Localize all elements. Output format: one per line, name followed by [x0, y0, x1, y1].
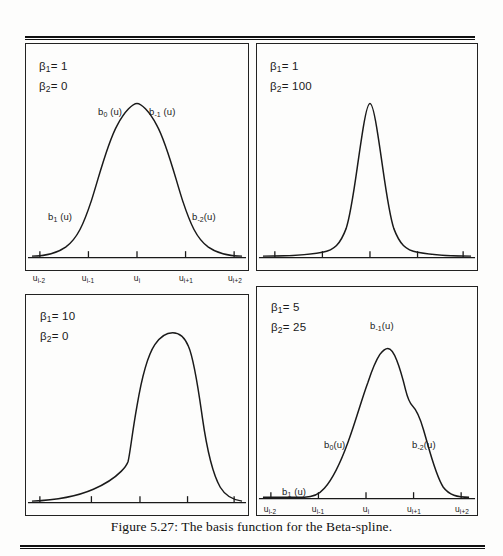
- basis-curve: [263, 103, 471, 256]
- axis-tick-label-3: ui+1: [407, 504, 421, 515]
- beta2-line: β2= 0: [40, 328, 75, 348]
- axis-tick-label-3: ui+1: [179, 273, 193, 284]
- top-rule-line-thick: [25, 36, 475, 38]
- x-axis-ticks: [40, 251, 234, 257]
- beta1-line: β1= 5: [271, 299, 306, 319]
- basis-curve: [32, 333, 242, 501]
- beta2-line: β2= 25: [271, 319, 306, 339]
- axis-tick-label-0: ui-2: [264, 504, 276, 515]
- beta1-line: β1= 1: [270, 58, 312, 78]
- curve-label-b0: b0 (u): [98, 106, 122, 118]
- plot-panel-top-right: β1= 1 β2= 100: [256, 43, 478, 271]
- curve-label-b1: b1 (u): [282, 486, 306, 498]
- axis-labels-top-left: ui-2 ui-1 ui ui+1 ui+2: [25, 273, 249, 287]
- beta-params-bottom-right: β1= 5 β2= 25: [271, 299, 306, 339]
- axis-tick-label-0: ui-2: [33, 273, 45, 284]
- basis-curve: [32, 103, 242, 256]
- axis-tick-label-4: ui+2: [228, 273, 242, 284]
- axis-labels-bottom-right: ui-2 ui-1 ui ui+1 ui+2: [256, 504, 478, 518]
- curve-label-b-2: b-2(u): [412, 439, 436, 451]
- top-rule: [25, 36, 475, 40]
- top-rule-line-thin: [25, 39, 475, 40]
- curve-label-b-1: b-1 (u): [149, 106, 175, 118]
- beta2-line: β2= 100: [270, 78, 312, 98]
- curve-label-b0: b0(u): [324, 439, 345, 451]
- plot-panel-bottom-right: β1= 5 β2= 25 b-1(u) b0(u) b-2(u) b1 (u): [256, 286, 478, 516]
- beta2-line: β2= 0: [39, 78, 68, 98]
- beta-params-top-left: β1= 1 β2= 0: [39, 58, 68, 98]
- beta1-line: β1= 1: [39, 58, 68, 78]
- axis-tick-label-2: ui: [134, 273, 140, 284]
- beta-params-bottom-left: β1= 10 β2= 0: [40, 308, 75, 348]
- bottom-rule-line-thin: [20, 548, 485, 549]
- bottom-rule: [20, 545, 485, 549]
- axis-tick-label-1: ui-1: [82, 273, 94, 284]
- axis-tick-label-4: ui+2: [455, 504, 469, 515]
- curve-label-b-2: b-2(u): [192, 211, 216, 223]
- curve-label-b1: b1 (u): [48, 211, 72, 223]
- axis-tick-label-1: ui-1: [312, 504, 324, 515]
- beta-params-top-right: β1= 1 β2= 100: [270, 58, 312, 98]
- plot-panel-top-left: β1= 1 β2= 0 b0 (u) b-1 (u) b1 (u) b-2(u): [25, 43, 249, 271]
- beta1-line: β1= 10: [40, 308, 75, 328]
- basis-curve: [263, 348, 469, 497]
- figure-page: β1= 1 β2= 0 b0 (u) b-1 (u) b1 (u) b-2(u)…: [0, 0, 503, 556]
- bottom-rule-line-thick: [20, 545, 485, 547]
- axis-tick-label-2: ui: [363, 504, 369, 515]
- plot-panel-bottom-left: β1= 10 β2= 0: [25, 294, 249, 516]
- curve-label-b-1: b-1(u): [370, 320, 394, 332]
- figure-caption: Figure 5.27: The basis function for the …: [0, 519, 503, 535]
